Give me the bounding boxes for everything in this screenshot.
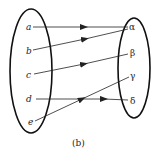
figure-caption: (b) <box>72 138 85 148</box>
codomain-element-alpha: α <box>129 22 135 32</box>
domain-element-d: d <box>26 94 32 104</box>
domain-element-c: c <box>26 70 31 80</box>
domain-element-e: e <box>28 117 33 127</box>
codomain-element-gamma: γ <box>130 71 135 81</box>
mapping-diagram: a b c d e α β γ δ (b) <box>0 0 154 156</box>
codomain-element-delta: δ <box>130 96 135 106</box>
domain-element-a: a <box>26 22 31 32</box>
mapping-c-beta <box>34 54 128 74</box>
codomain-element-beta: β <box>130 48 135 58</box>
domain-element-b: b <box>26 46 32 56</box>
